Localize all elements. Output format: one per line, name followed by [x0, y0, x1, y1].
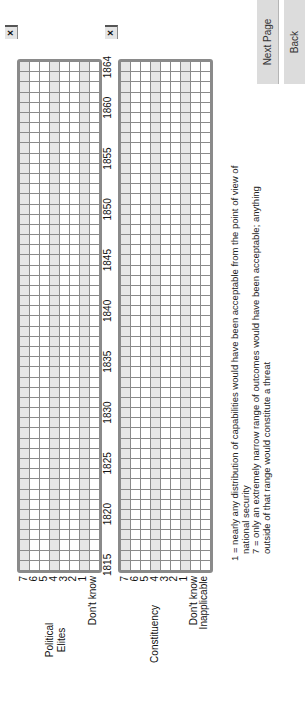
grid-cell[interactable] — [171, 469, 180, 478]
grid-cell[interactable] — [90, 82, 99, 91]
grid-cell[interactable] — [90, 479, 99, 488]
grid-cell[interactable] — [121, 215, 130, 224]
grid-cell[interactable] — [191, 174, 200, 183]
grid-cell[interactable] — [20, 408, 29, 417]
grid-cell[interactable] — [171, 62, 180, 71]
grid-cell[interactable] — [151, 62, 160, 71]
grid-cell[interactable] — [161, 205, 170, 214]
grid-cell[interactable] — [171, 266, 180, 275]
grid-cell[interactable] — [201, 469, 210, 478]
grid-cell[interactable] — [161, 500, 170, 509]
grid-cell[interactable] — [161, 479, 170, 488]
grid-cell[interactable] — [90, 388, 99, 397]
grid-cell[interactable] — [70, 306, 79, 315]
grid-cell[interactable] — [90, 255, 99, 264]
grid-cell[interactable] — [141, 306, 150, 315]
grid-cell[interactable] — [30, 194, 39, 203]
grid-cell[interactable] — [50, 62, 59, 71]
grid-cell[interactable] — [30, 479, 39, 488]
grid-cell[interactable] — [161, 194, 170, 203]
grid-cell[interactable] — [70, 479, 79, 488]
grid-cell[interactable] — [191, 255, 200, 264]
grid-cell[interactable] — [20, 479, 29, 488]
grid-cell[interactable] — [90, 398, 99, 407]
grid-cell[interactable] — [40, 82, 49, 91]
grid-cell[interactable] — [201, 378, 210, 387]
grid-cell[interactable] — [181, 540, 190, 549]
grid-cell[interactable] — [30, 113, 39, 122]
grid-cell[interactable] — [201, 510, 210, 519]
grid-cell[interactable] — [181, 357, 190, 366]
grid-cell[interactable] — [50, 510, 59, 519]
grid-cell[interactable] — [131, 113, 140, 122]
grid-cell[interactable] — [70, 266, 79, 275]
grid-cell[interactable] — [20, 306, 29, 315]
grid-cell[interactable] — [70, 184, 79, 193]
grid-cell[interactable] — [141, 235, 150, 244]
grid-cell[interactable] — [161, 82, 170, 91]
grid-cell[interactable] — [201, 306, 210, 315]
grid-cell[interactable] — [191, 276, 200, 285]
grid-cell[interactable] — [141, 510, 150, 519]
grid-cell[interactable] — [141, 500, 150, 509]
grid-cell[interactable] — [90, 93, 99, 102]
grid-cell[interactable] — [80, 62, 89, 71]
grid-cell[interactable] — [161, 72, 170, 81]
grid-cell[interactable] — [151, 357, 160, 366]
grid-cell[interactable] — [90, 72, 99, 81]
grid-cell[interactable] — [161, 459, 170, 468]
grid-cell[interactable] — [121, 103, 130, 112]
grid-cell[interactable] — [161, 510, 170, 519]
grid-cell[interactable] — [181, 469, 190, 478]
grid-cell[interactable] — [40, 235, 49, 244]
grid-cell[interactable] — [191, 378, 200, 387]
grid-cell[interactable] — [191, 245, 200, 254]
grid-cell[interactable] — [181, 93, 190, 102]
grid-cell[interactable] — [191, 93, 200, 102]
grid-cell[interactable] — [60, 194, 69, 203]
grid-cell[interactable] — [131, 62, 140, 71]
grid-cell[interactable] — [191, 347, 200, 356]
grid-cell[interactable] — [80, 296, 89, 305]
grid-cell[interactable] — [40, 449, 49, 458]
grid-cell[interactable] — [141, 143, 150, 152]
grid-cell[interactable] — [171, 276, 180, 285]
grid-cell[interactable] — [70, 367, 79, 376]
grid-cell[interactable] — [50, 551, 59, 560]
grid-cell[interactable] — [90, 439, 99, 448]
grid-cell[interactable] — [181, 479, 190, 488]
grid-cell[interactable] — [70, 459, 79, 468]
grid-cell[interactable] — [90, 286, 99, 295]
grid-cell[interactable] — [60, 479, 69, 488]
grid-cell[interactable] — [60, 378, 69, 387]
grid-cell[interactable] — [90, 62, 99, 71]
grid-cell[interactable] — [161, 266, 170, 275]
grid-cell[interactable] — [50, 408, 59, 417]
grid-cell[interactable] — [90, 123, 99, 132]
grid-cell[interactable] — [161, 123, 170, 132]
grid-cell[interactable] — [121, 62, 130, 71]
grid-cell[interactable] — [30, 367, 39, 376]
grid-cell[interactable] — [131, 428, 140, 437]
back-button[interactable]: Back — [284, 0, 305, 84]
grid-cell[interactable] — [30, 520, 39, 529]
grid-cell[interactable] — [151, 530, 160, 539]
grid-cell[interactable] — [181, 378, 190, 387]
grid-cell[interactable] — [121, 296, 130, 305]
grid-cell[interactable] — [60, 215, 69, 224]
grid-cell[interactable] — [171, 439, 180, 448]
grid-cell[interactable] — [171, 378, 180, 387]
grid-cell[interactable] — [141, 378, 150, 387]
grid-cell[interactable] — [30, 490, 39, 499]
grid-cell[interactable] — [121, 72, 130, 81]
grid-cell[interactable] — [70, 551, 79, 560]
grid-cell[interactable] — [181, 428, 190, 437]
grid-cell[interactable] — [121, 266, 130, 275]
grid-cell[interactable] — [30, 408, 39, 417]
grid-cell[interactable] — [20, 500, 29, 509]
grid-cell[interactable] — [191, 367, 200, 376]
grid-cell[interactable] — [20, 459, 29, 468]
grid-cell[interactable] — [60, 439, 69, 448]
grid-cell[interactable] — [50, 184, 59, 193]
grid-cell[interactable] — [80, 408, 89, 417]
